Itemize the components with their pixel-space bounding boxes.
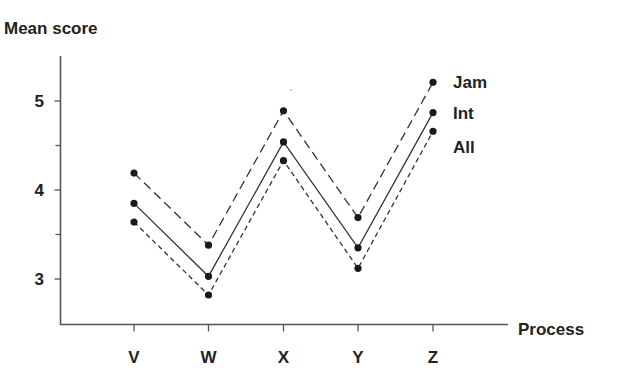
data-point-all-x	[280, 157, 287, 164]
series-line-int	[134, 113, 433, 277]
series-group	[130, 79, 436, 299]
line-chart: Mean score Process 345 VWXYZ JamIntAll	[0, 0, 619, 383]
y-tick-label: 5	[35, 92, 44, 111]
data-point-jam-v	[130, 169, 137, 176]
x-tick-label-w: W	[200, 348, 217, 367]
data-point-int-w	[205, 273, 212, 280]
data-point-jam-y	[354, 214, 361, 221]
data-point-int-y	[354, 244, 361, 251]
y-axis-title: Mean score	[4, 19, 98, 38]
data-point-all-y	[354, 265, 361, 272]
stray-dot-artifact	[290, 89, 292, 91]
series-label-all: All	[453, 138, 475, 157]
x-axis-ticks: VWXYZ	[128, 325, 438, 368]
data-point-all-v	[130, 218, 137, 225]
data-point-int-v	[130, 200, 137, 207]
y-tick-label: 3	[35, 270, 44, 289]
data-point-all-w	[205, 291, 212, 298]
data-point-jam-w	[205, 242, 212, 249]
data-point-int-z	[429, 109, 436, 116]
series-line-all	[134, 131, 433, 295]
x-tick-label-y: Y	[352, 348, 364, 367]
data-point-jam-z	[429, 79, 436, 86]
y-axis-ticks: 345	[35, 92, 61, 289]
series-int	[130, 109, 436, 280]
y-tick-label: 4	[35, 181, 45, 200]
data-point-all-z	[429, 128, 436, 135]
axes	[61, 56, 509, 325]
x-tick-label-z: Z	[428, 348, 438, 367]
series-all	[130, 128, 436, 299]
series-labels: JamIntAll	[453, 73, 487, 157]
series-label-jam: Jam	[453, 73, 487, 92]
x-tick-label-v: V	[128, 348, 140, 367]
data-point-jam-x	[280, 107, 287, 114]
series-label-int: Int	[453, 104, 474, 123]
x-tick-label-x: X	[278, 348, 290, 367]
axis-lines	[61, 56, 509, 325]
x-axis-title: Process	[518, 320, 584, 339]
data-point-int-x	[280, 138, 287, 145]
